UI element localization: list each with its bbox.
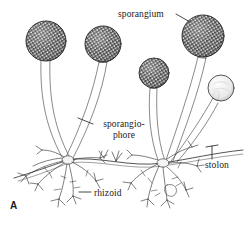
sporangiophore-4-edge-b xyxy=(173,58,206,161)
leader-sporangium xyxy=(176,14,190,22)
sporangiophore-1-edge-a xyxy=(41,59,62,157)
sporangium-2 xyxy=(85,26,121,62)
label-stolon: stolon xyxy=(205,160,229,171)
label-sporangium: sporangium xyxy=(118,9,164,20)
label-rhizoid: rhizoid xyxy=(94,188,122,199)
sporangiophore-3-edge-b xyxy=(157,88,165,161)
label-sporangiophore-line2: phore xyxy=(113,130,135,140)
label-sporangiophore-line1: sporangio- xyxy=(103,119,145,129)
label-sporangiophore: sporangio-phore xyxy=(96,119,152,140)
sporangiophore-2-edge-b xyxy=(73,62,107,158)
sporangium-1 xyxy=(26,21,66,61)
stolon-side-branch xyxy=(112,151,122,161)
sporangium-5 xyxy=(208,75,234,101)
figure-rhizopus-diagram: sporangium sporangio-phore stolon rhizoi… xyxy=(0,0,248,229)
sporangiophore-4-edge-a xyxy=(166,57,198,160)
sporangiophore-1-edge-b xyxy=(50,59,70,158)
diagram-canvas xyxy=(0,0,248,229)
panel-label: A xyxy=(10,201,17,212)
rhizoid-right xyxy=(123,141,204,208)
sporangium-3 xyxy=(139,58,169,88)
